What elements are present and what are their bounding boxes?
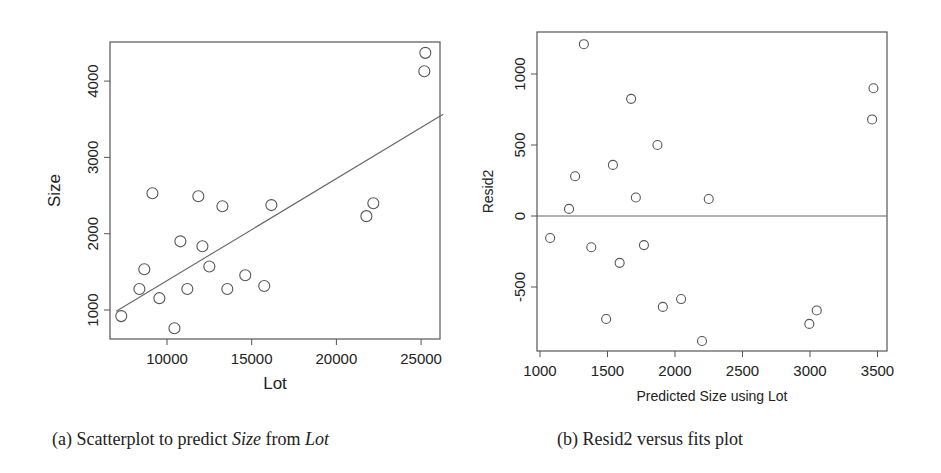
y-tick-label: 0 xyxy=(511,212,528,220)
scatterplot-size-vs-lot: 100001500020000250001000200030004000LotS… xyxy=(0,0,470,473)
data-point xyxy=(546,234,555,243)
data-point xyxy=(639,241,648,250)
data-point xyxy=(658,302,667,311)
data-point xyxy=(704,194,713,203)
data-point xyxy=(631,193,640,202)
data-point xyxy=(240,270,251,281)
plot-frame xyxy=(537,32,887,351)
data-point xyxy=(420,47,431,58)
x-tick-label: 2000 xyxy=(658,362,691,379)
x-tick-label: 2500 xyxy=(726,362,759,379)
caption-a-var-size: Size xyxy=(232,429,261,449)
data-point xyxy=(197,241,208,252)
data-point xyxy=(147,188,158,199)
panel-a-scatterplot: 100001500020000250001000200030004000LotS… xyxy=(0,0,470,473)
data-point xyxy=(805,319,814,328)
data-point xyxy=(361,211,372,222)
data-point xyxy=(169,323,180,334)
data-point xyxy=(579,40,588,49)
data-point xyxy=(175,236,186,247)
caption-a-var-lot: Lot xyxy=(305,429,329,449)
y-axis-label: Resid2 xyxy=(480,170,496,214)
data-point xyxy=(868,115,877,124)
data-point xyxy=(677,295,686,304)
x-tick-label: 15000 xyxy=(231,350,273,367)
data-point xyxy=(653,141,662,150)
caption-a: (a) Scatterplot to predict Size from Lot xyxy=(52,429,329,450)
y-tick-label: 2000 xyxy=(84,217,101,250)
data-point xyxy=(182,284,193,295)
x-tick-label: 3500 xyxy=(861,362,894,379)
y-tick-label: 1000 xyxy=(511,57,528,90)
data-point xyxy=(217,201,228,212)
regression-line xyxy=(116,114,443,311)
y-tick-label: 1000 xyxy=(84,293,101,326)
data-point xyxy=(154,293,165,304)
x-tick-label: 20000 xyxy=(316,350,358,367)
data-point xyxy=(698,336,707,345)
data-point xyxy=(116,311,127,322)
x-tick-label: 3000 xyxy=(793,362,826,379)
caption-b: (b) Resid2 versus fits plot xyxy=(557,429,743,450)
residual-vs-fits-plot: 100015002000250030003500-50005001000Pred… xyxy=(470,0,941,473)
x-tick-label: 25000 xyxy=(400,350,442,367)
caption-a-prefix: (a) Scatterplot to predict xyxy=(52,429,232,449)
data-point xyxy=(812,306,821,315)
x-tick-label: 1500 xyxy=(591,362,624,379)
y-tick-label: 4000 xyxy=(84,64,101,97)
data-point xyxy=(419,66,430,77)
data-point xyxy=(571,172,580,181)
data-point xyxy=(615,258,624,267)
data-point xyxy=(368,198,379,209)
y-axis-label: Size xyxy=(45,174,64,207)
plot-frame xyxy=(110,42,440,339)
data-point xyxy=(266,200,277,211)
data-point xyxy=(565,204,574,213)
panel-b-residual-plot: 100015002000250030003500-50005001000Pred… xyxy=(470,0,941,473)
y-tick-label: 3000 xyxy=(84,141,101,174)
y-tick-label: -500 xyxy=(511,272,528,302)
x-axis-label: Lot xyxy=(263,374,287,393)
caption-b-text: (b) Resid2 versus fits plot xyxy=(557,429,743,449)
data-point xyxy=(134,284,145,295)
data-point xyxy=(869,84,878,93)
data-point xyxy=(193,191,204,202)
x-axis-label: Predicted Size using Lot xyxy=(637,388,788,404)
x-tick-label: 10000 xyxy=(146,350,188,367)
data-point xyxy=(587,243,596,252)
data-point xyxy=(602,314,611,323)
data-point xyxy=(259,280,270,291)
data-point xyxy=(204,261,215,272)
y-tick-label: 500 xyxy=(511,132,528,157)
data-point xyxy=(627,94,636,103)
x-tick-label: 1000 xyxy=(523,362,556,379)
data-point xyxy=(139,264,150,275)
data-point xyxy=(608,160,617,169)
data-point xyxy=(222,284,233,295)
caption-a-mid: from xyxy=(261,429,305,449)
